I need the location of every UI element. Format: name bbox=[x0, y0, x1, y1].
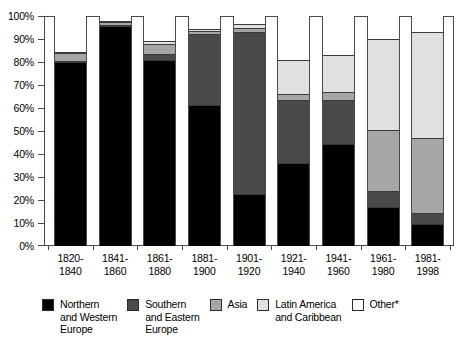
bar-slot bbox=[316, 16, 361, 246]
bar-segment[interactable] bbox=[368, 39, 399, 130]
x-axis-label: 1921-1940 bbox=[271, 252, 316, 278]
bar-slot bbox=[93, 16, 138, 246]
y-axis-tick-label: 60% bbox=[14, 102, 34, 114]
bar-slot bbox=[271, 16, 316, 246]
bar-slot bbox=[48, 16, 93, 246]
stacked-bar[interactable] bbox=[99, 16, 132, 246]
bar-segment[interactable] bbox=[412, 224, 443, 246]
legend-label: Asia bbox=[228, 298, 248, 311]
bar-slot bbox=[405, 16, 450, 246]
bar-segment[interactable] bbox=[278, 100, 309, 163]
x-axis-label: 1820-1840 bbox=[48, 252, 93, 278]
x-axis-tick bbox=[227, 246, 228, 250]
bar-segment[interactable] bbox=[278, 16, 309, 60]
bar-segment[interactable] bbox=[189, 16, 220, 29]
x-axis-tick bbox=[182, 246, 183, 250]
bar-segment[interactable] bbox=[189, 105, 220, 246]
bar-segment[interactable] bbox=[144, 60, 175, 246]
bar-segment[interactable] bbox=[278, 60, 309, 95]
y-axis-tick-label: 70% bbox=[14, 79, 34, 91]
y-axis-tick-label: 0% bbox=[19, 240, 34, 252]
bar-group bbox=[44, 16, 454, 246]
x-axis-labels: 1820-18401841-18601861-18801881-19001901… bbox=[44, 252, 454, 278]
x-axis-label: 1881-1900 bbox=[182, 252, 227, 278]
bar-segment[interactable] bbox=[278, 163, 309, 246]
stacked-bar[interactable] bbox=[367, 16, 400, 246]
bar-segment[interactable] bbox=[144, 16, 175, 41]
x-axis-ticks bbox=[44, 246, 454, 251]
legend-item[interactable]: Northern and Western Europe bbox=[42, 298, 117, 336]
bar-segment[interactable] bbox=[323, 55, 354, 92]
legend-swatch-icon bbox=[257, 299, 269, 311]
legend-item[interactable]: Asia bbox=[210, 298, 248, 311]
bar-segment[interactable] bbox=[412, 138, 443, 213]
x-axis-tick bbox=[93, 246, 94, 250]
bar-segment[interactable] bbox=[412, 32, 443, 138]
bar-segment[interactable] bbox=[189, 34, 220, 104]
bar-segment[interactable] bbox=[100, 26, 131, 246]
bar-segment[interactable] bbox=[55, 16, 86, 52]
x-axis-label: 1841-1860 bbox=[93, 252, 138, 278]
x-axis-tick bbox=[450, 246, 451, 250]
y-axis-tick-label: 80% bbox=[14, 56, 34, 68]
bar-segment[interactable] bbox=[323, 92, 354, 100]
y-axis-tick-label: 30% bbox=[14, 171, 34, 183]
bar-segment[interactable] bbox=[55, 62, 86, 246]
x-axis-tick bbox=[361, 246, 362, 250]
bar-segment[interactable] bbox=[323, 16, 354, 55]
bar-segment[interactable] bbox=[234, 32, 265, 194]
x-axis-label: 1861-1880 bbox=[137, 252, 182, 278]
x-axis-tick bbox=[137, 246, 138, 250]
plot-area bbox=[44, 16, 454, 246]
bar-segment[interactable] bbox=[368, 191, 399, 207]
stacked-bar[interactable] bbox=[322, 16, 355, 246]
x-axis-tick bbox=[405, 246, 406, 250]
stacked-bar[interactable] bbox=[54, 16, 87, 246]
bar-slot bbox=[361, 16, 406, 246]
legend-swatch-icon bbox=[42, 299, 54, 311]
legend-label: Southern and Eastern Europe bbox=[145, 298, 199, 336]
bar-segment[interactable] bbox=[323, 144, 354, 246]
y-axis-tick-label: 90% bbox=[14, 33, 34, 45]
legend-swatch-icon bbox=[127, 299, 139, 311]
y-axis-tick-label: 10% bbox=[14, 217, 34, 229]
y-axis-tick-label: 20% bbox=[14, 194, 34, 206]
stacked-bar[interactable] bbox=[411, 16, 444, 246]
chart-container: 100%90%80%70%60%50%40%30%20%10%0% 1820-1… bbox=[0, 0, 472, 351]
bar-segment[interactable] bbox=[55, 53, 86, 61]
bar-segment[interactable] bbox=[234, 16, 265, 24]
bar-slot bbox=[227, 16, 272, 246]
y-axis-tick-label: 100% bbox=[8, 10, 34, 22]
y-axis-tick-label: 40% bbox=[14, 148, 34, 160]
bar-segment[interactable] bbox=[368, 130, 399, 191]
bar-segment[interactable] bbox=[144, 44, 175, 54]
y-axis: 100%90%80%70%60%50%40%30%20%10%0% bbox=[0, 16, 42, 246]
legend-label: Other* bbox=[370, 298, 399, 311]
bar-segment[interactable] bbox=[368, 207, 399, 246]
stacked-bar[interactable] bbox=[188, 16, 221, 246]
bar-segment[interactable] bbox=[323, 100, 354, 144]
bar-segment[interactable] bbox=[234, 194, 265, 246]
x-axis-tick bbox=[316, 246, 317, 250]
x-axis-label: 1901-1920 bbox=[227, 252, 272, 278]
legend-label: Latin America and Caribbean bbox=[275, 298, 341, 323]
chart-legend: Northern and Western EuropeSouthern and … bbox=[42, 298, 462, 336]
legend-swatch-icon bbox=[210, 299, 222, 311]
bar-segment[interactable] bbox=[412, 16, 443, 32]
bar-slot bbox=[137, 16, 182, 246]
legend-item[interactable]: Other* bbox=[352, 298, 399, 311]
stacked-bar[interactable] bbox=[277, 16, 310, 246]
bar-segment[interactable] bbox=[412, 213, 443, 225]
legend-item[interactable]: Latin America and Caribbean bbox=[257, 298, 341, 323]
stacked-bar[interactable] bbox=[143, 16, 176, 246]
x-axis-tick bbox=[271, 246, 272, 250]
legend-item[interactable]: Southern and Eastern Europe bbox=[127, 298, 199, 336]
legend-label: Northern and Western Europe bbox=[60, 298, 117, 336]
legend-swatch-icon bbox=[352, 299, 364, 311]
bar-segment[interactable] bbox=[368, 16, 399, 39]
y-axis-tick-label: 50% bbox=[14, 125, 34, 137]
x-axis-tick bbox=[48, 246, 49, 250]
stacked-bar[interactable] bbox=[233, 16, 266, 246]
x-axis-label: 1941-1960 bbox=[316, 252, 361, 278]
x-axis-label: 1981-1998 bbox=[405, 252, 450, 278]
